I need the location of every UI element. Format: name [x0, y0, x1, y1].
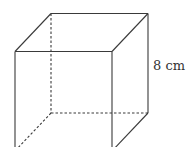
bottom-right-depth-edge	[112, 113, 148, 147]
cube-diagram: 8 cm	[0, 0, 194, 147]
top-right-depth-edge	[112, 14, 148, 52]
edge-length-label: 8 cm	[153, 58, 185, 73]
hidden-bottom-left-depth-edge	[15, 113, 51, 147]
top-left-depth-edge	[15, 14, 51, 52]
